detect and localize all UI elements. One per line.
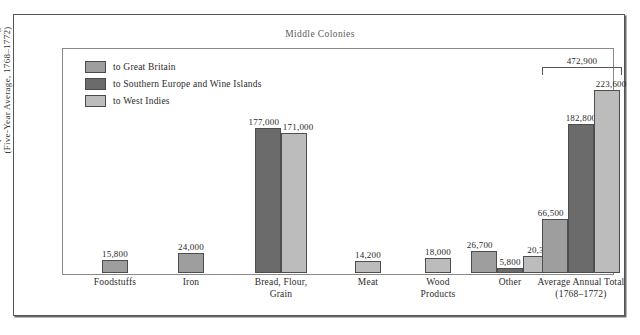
bar-column: 177,000	[255, 128, 281, 273]
bar[interactable]	[542, 219, 568, 273]
figure-canvas: Middle Colonies Export Value in Pounds S…	[0, 0, 640, 335]
bar-group: 177,000171,000	[255, 128, 307, 273]
bar-column: 14,200	[355, 261, 381, 273]
bar-column: 26,700	[471, 251, 497, 273]
bar[interactable]	[425, 258, 451, 273]
bar[interactable]	[497, 268, 523, 273]
chart-title: Middle Colonies	[0, 29, 640, 39]
x-axis-label-line1: Bread, Flour,	[255, 277, 308, 287]
x-axis-label-line1: Iron	[183, 277, 200, 287]
x-axis-label-line1: Average Annual Total	[538, 277, 625, 287]
y-axis-title: Export Value in Pounds Sterling (Five-Ye…	[0, 0, 13, 260]
bar-column: 223,600	[594, 90, 620, 273]
bar-column: 18,000	[425, 258, 451, 273]
y-axis-title-line1: Export Value in Pounds Sterling	[0, 27, 1, 152]
bar-group: 24,000	[178, 253, 204, 273]
bar-group: 14,200	[355, 261, 381, 273]
bar-column: 24,000	[178, 253, 204, 273]
plot-area-box: to Great Britain to Southern Europe and …	[62, 48, 614, 275]
total-bracket-value-label: 472,900	[567, 56, 598, 66]
bar[interactable]	[355, 261, 381, 273]
bar-value-label: 24,000	[178, 242, 204, 252]
x-axis-label-line1: Other	[499, 277, 522, 287]
bar-value-label: 223,600	[596, 79, 627, 89]
bar[interactable]	[281, 133, 307, 273]
bar[interactable]	[178, 253, 204, 273]
bar[interactable]	[568, 124, 594, 273]
bar-value-label: 177,000	[249, 117, 280, 127]
bar-column: 171,000	[281, 133, 307, 273]
bar-column: 182,800	[568, 124, 594, 273]
bar-value-label: 26,700	[467, 240, 493, 250]
bar-value-label: 182,800	[566, 113, 597, 123]
bar-value-label: 15,800	[102, 249, 128, 259]
bar[interactable]	[255, 128, 281, 273]
x-axis-label-line1: Wood	[426, 277, 449, 287]
bar-group: 18,000	[425, 258, 451, 273]
x-axis-label-line2: Products	[378, 289, 498, 301]
bar-group: 26,7005,80020,300	[471, 251, 549, 273]
bar[interactable]	[594, 90, 620, 273]
bars-layer: 15,800Foodstuffs24,000Iron177,000171,000…	[63, 49, 613, 273]
total-bracket: 472,900	[542, 67, 622, 75]
bar-value-label: 18,000	[425, 247, 451, 257]
bar-value-label: 5,800	[499, 257, 520, 267]
bar[interactable]	[102, 260, 128, 273]
bar-column: 5,800	[497, 268, 523, 273]
x-axis-label-line2: Grain	[221, 289, 341, 301]
bar-value-label: 171,000	[283, 122, 314, 132]
x-axis-label-line1: Foodstuffs	[94, 277, 136, 287]
bar[interactable]	[471, 251, 497, 273]
x-axis-label: Average Annual Total(1768–1772)	[521, 277, 640, 300]
bar-value-label: 66,500	[538, 208, 564, 218]
x-axis-label-line2: (1768–1772)	[521, 289, 640, 301]
bar-group: 66,500182,800223,600	[542, 90, 620, 273]
y-axis-title-line2: (Five-Year Average, 1768–1772)	[2, 0, 13, 260]
x-axis-label-line1: Meat	[358, 277, 378, 287]
bar-value-label: 14,200	[355, 250, 381, 260]
bar-column: 15,800	[102, 260, 128, 273]
bar-group: 15,800	[102, 260, 128, 273]
bar-column: 66,500	[542, 219, 568, 273]
